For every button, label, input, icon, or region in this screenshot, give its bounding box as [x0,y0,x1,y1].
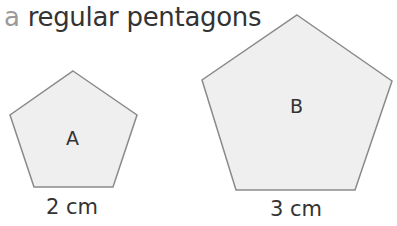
pentagon-b-label: B [290,95,303,117]
pentagons-figure [0,0,397,226]
pentagon-a-side-length: 2 cm [46,195,98,219]
pentagon-b-side-length: 3 cm [270,197,322,221]
pentagon-a-label: A [66,127,79,149]
